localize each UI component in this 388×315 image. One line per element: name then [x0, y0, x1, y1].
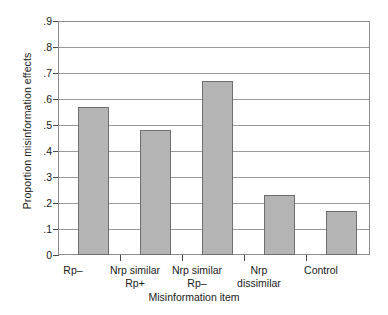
x-category-line1: Control [304, 264, 338, 276]
x-category-line2: dissimilar [223, 277, 295, 290]
y-tick-label-1: .1 [30, 224, 52, 235]
y-tick-label-3: .3 [30, 172, 52, 183]
bar-control [326, 211, 357, 255]
x-tick-mark-4 [306, 255, 307, 261]
y-tick-label-6: .6 [30, 94, 52, 105]
x-axis-title: Misinformation item [0, 291, 388, 303]
bar-series [58, 21, 370, 255]
y-tick-mark-0 [53, 255, 59, 256]
bar-nrp-similar-rp-plus [140, 130, 171, 255]
x-category-line1: Nrp similar [110, 264, 160, 276]
x-category-line1: Nrp [251, 264, 268, 276]
bar-rp-minus [78, 107, 109, 255]
y-tick-label-9: .9 [30, 16, 52, 27]
x-tick-mark-1 [120, 255, 121, 261]
bar-nrp-similar-rp-minus [202, 81, 233, 255]
x-tick-mark-3 [244, 255, 245, 261]
y-tick-label-8: .8 [30, 42, 52, 53]
x-category-label-control: Control [285, 264, 357, 277]
y-tick-label-7: .7 [30, 68, 52, 79]
y-tick-label-5: .5 [30, 120, 52, 131]
bar-nrp-dissimilar [264, 195, 295, 255]
x-tick-mark-2 [182, 255, 183, 261]
y-tick-label-4: .4 [30, 146, 52, 157]
y-tick-label-0: 0 [30, 250, 52, 261]
y-tick-label-2: .2 [30, 198, 52, 209]
bar-chart: Proportion misinformation effects .9 .8 … [0, 0, 388, 315]
x-category-line1: Rp– [63, 264, 82, 276]
x-category-line1: Nrp similar [172, 264, 222, 276]
